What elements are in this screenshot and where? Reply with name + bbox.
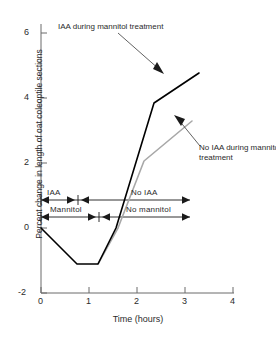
y-tick-label-0: 0	[24, 222, 29, 232]
y-tick-label-minus2: -2	[18, 287, 26, 297]
chart-figure: Percent change in length of oat coleopti…	[0, 0, 276, 337]
bar-label-no-mannitol: No mannitol	[126, 205, 171, 215]
iaa-treatment-bar	[41, 195, 190, 205]
annotation-leader-no-iaa	[174, 115, 200, 146]
annotation-leader-iaa	[118, 33, 164, 74]
series-annotation-no-iaa-line1: No IAA during mannitol	[199, 143, 276, 154]
y-tick-label-2: 2	[24, 157, 29, 167]
x-tick-label-0: 0	[38, 296, 43, 306]
bar-label-mannitol: Mannitol	[50, 205, 82, 215]
x-tick-label-1: 1	[86, 296, 91, 306]
y-tick-label-4: 4	[24, 92, 29, 102]
x-axis-title: Time (hours)	[0, 314, 276, 324]
x-tick-label-4: 4	[230, 296, 235, 306]
series-line-iaa	[41, 73, 199, 264]
y-axis-title: Percent change in length of oat coleopti…	[34, 44, 44, 244]
bar-label-iaa: IAA	[47, 188, 61, 198]
x-tick-label-3: 3	[182, 296, 187, 306]
x-tick-label-2: 2	[134, 296, 139, 306]
bar-label-no-iaa: No IAA	[131, 188, 158, 198]
series-annotation-iaa: IAA during mannitol treatment	[58, 22, 163, 33]
x-tick-marks	[41, 287, 233, 293]
y-tick-label-6: 6	[24, 27, 29, 37]
series-annotation-no-iaa-line2: treatment	[199, 153, 233, 164]
